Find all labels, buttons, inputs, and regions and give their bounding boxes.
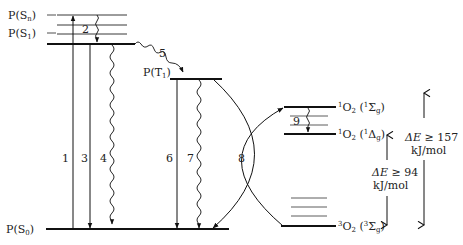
label-t1: P(T1) <box>143 66 171 80</box>
transition-4-wavy <box>110 45 114 224</box>
sn-levels <box>57 15 127 34</box>
jablonski-diagram: P(Sn) P(S1) P(T1) P(S0) 1 2 3 4 5 6 7 8 … <box>0 0 463 245</box>
label-s1: P(S1) <box>8 27 36 41</box>
svg-text:4: 4 <box>100 152 107 165</box>
o2-triplet-vib-levels <box>291 198 327 216</box>
gap-157-label: ΔE ≥ 157 <box>404 131 458 144</box>
svg-text:7: 7 <box>187 152 194 165</box>
transition-7-wavy <box>197 80 201 228</box>
transition-8-curve-up <box>242 108 284 226</box>
transition-9-wavy <box>307 108 310 132</box>
svg-text:6: 6 <box>166 152 173 165</box>
label-o2-1delta: 1O2 (1Δg) <box>338 128 385 142</box>
svg-text:3: 3 <box>81 152 88 165</box>
gap-94-label: ΔE ≥ 94 <box>371 166 418 179</box>
label-sn: P(Sn) <box>8 9 36 23</box>
label-s0: P(S0) <box>6 223 34 237</box>
svg-text:9: 9 <box>293 115 300 128</box>
svg-text:8: 8 <box>238 152 245 165</box>
label-o2-3sigma: 3O2 (3Σg) <box>338 220 385 234</box>
transition-8-curve-down <box>213 79 255 228</box>
svg-text:5: 5 <box>159 47 166 60</box>
svg-text:1: 1 <box>62 152 69 165</box>
svg-text:2: 2 <box>82 23 89 36</box>
transition-2-wavy <box>96 15 99 42</box>
gap-157-unit: kJ/mol <box>411 144 447 157</box>
gap-94-unit: kJ/mol <box>373 179 409 192</box>
label-o2-1sigma: 1O2 (1Σg) <box>338 101 385 115</box>
